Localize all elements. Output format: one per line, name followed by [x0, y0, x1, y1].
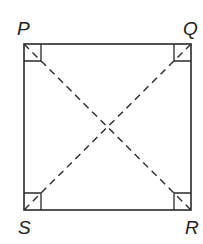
square-diagram: P Q S R: [0, 0, 203, 244]
vertex-label-s: S: [18, 217, 31, 238]
diagonal-qs: [24, 44, 191, 210]
vertex-label-q: Q: [183, 18, 198, 39]
square-outline: [24, 44, 191, 210]
vertex-label-p: P: [17, 18, 30, 39]
diagonal-pr: [24, 44, 191, 210]
vertex-label-r: R: [185, 217, 199, 238]
